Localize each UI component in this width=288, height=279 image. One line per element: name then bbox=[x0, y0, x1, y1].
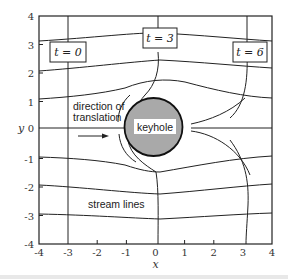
x-axis-ticks bbox=[97, 240, 214, 244]
x-axis-label: x bbox=[152, 258, 159, 271]
time-marker-t6: t = 6 bbox=[233, 42, 267, 62]
keyhole-label: keyhole bbox=[137, 121, 173, 133]
x-tick-neg4: -4 bbox=[34, 247, 44, 258]
y-tick-neg1: -1 bbox=[24, 154, 34, 165]
stream-lines-label: stream lines bbox=[88, 198, 145, 210]
x-tick-3: 3 bbox=[240, 247, 246, 258]
x-tick-4: 4 bbox=[269, 247, 275, 258]
time-label-t6: t = 6 bbox=[236, 46, 264, 59]
x-tick-1: 1 bbox=[181, 247, 187, 258]
y-tick-neg4: -4 bbox=[24, 239, 34, 250]
time-marker-t3: t = 3 bbox=[143, 28, 177, 48]
x-tick-0: 0 bbox=[152, 247, 158, 258]
stream-line-yneg3 bbox=[39, 213, 272, 219]
x-tick-neg2: -2 bbox=[92, 247, 102, 258]
y-tick-1: 1 bbox=[28, 97, 34, 108]
y-tick-2: 2 bbox=[28, 68, 34, 79]
y-tick-3: 3 bbox=[28, 40, 34, 51]
x-tick-labels: -4 -3 -2 -1 0 1 2 3 4 bbox=[34, 247, 275, 258]
stream-line-yneg2 bbox=[39, 184, 272, 194]
stream-line-y0-right-lower bbox=[191, 131, 250, 175]
y-tick-4: 4 bbox=[28, 11, 34, 22]
x-tick-neg3: -3 bbox=[63, 247, 73, 258]
bottom-divider bbox=[0, 275, 288, 279]
y-tick-labels: 4 3 2 1 0 -1 -2 -3 -4 bbox=[24, 11, 34, 250]
x-tick-neg1: -1 bbox=[121, 247, 131, 258]
direction-arrow-icon bbox=[78, 134, 109, 139]
keyhole-streamline-diagram: 4 3 2 1 0 -1 -2 -3 -4 y -4 -3 -2 -1 0 1 … bbox=[0, 0, 288, 279]
stream-line-y0-right-upper bbox=[191, 98, 245, 124]
x-tick-2: 2 bbox=[211, 247, 217, 258]
y-axis-label: y bbox=[17, 122, 25, 135]
stream-line-y1 bbox=[39, 80, 272, 99]
time-label-t3: t = 3 bbox=[146, 32, 174, 45]
time-marker-t0: t = 0 bbox=[50, 42, 86, 62]
y-tick-neg3: -3 bbox=[24, 211, 34, 222]
stream-line-yneg1 bbox=[39, 156, 272, 172]
y-tick-neg2: -2 bbox=[24, 182, 34, 193]
y-tick-0: 0 bbox=[28, 123, 34, 134]
time-label-t0: t = 0 bbox=[54, 46, 82, 59]
direction-label-line2: translation bbox=[73, 111, 122, 123]
